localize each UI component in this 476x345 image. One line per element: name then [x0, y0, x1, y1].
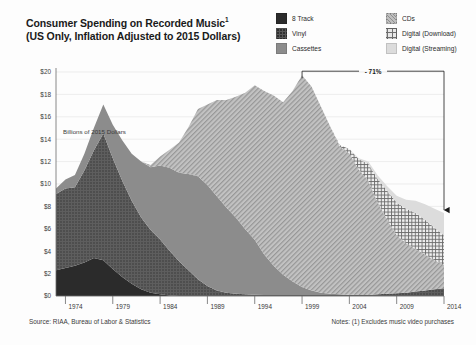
y-tick-label: $14	[40, 136, 51, 143]
legend-item-8-track[interactable]: 8 Track	[276, 11, 321, 26]
legend-item-digital-download[interactable]: Digital (Download)	[386, 26, 457, 41]
x-tick-label: 2014	[447, 303, 462, 310]
x-tick-label: 1974	[68, 303, 83, 310]
legend-label-8-track: 8 Track	[292, 14, 314, 23]
y-tick-label: $16	[40, 113, 51, 120]
legend-label-digital-streaming: Digital (Streaming)	[402, 44, 457, 53]
legend-item-cassettes[interactable]: Cassettes	[276, 41, 321, 56]
chart-series-areas	[56, 75, 444, 296]
chart-header: Consumer Spending on Recorded Music1 (US…	[0, 0, 476, 62]
legend-item-digital-streaming[interactable]: Digital (Streaming)	[386, 41, 457, 56]
title-line-1: Consumer Spending on Recorded Music	[26, 17, 225, 29]
swatch-cassettes-icon	[276, 43, 287, 54]
chart-legend: 8 Track Vinyl Cassettes CDs Di	[276, 11, 472, 57]
y-axis-label: Billions of 2015 Dollars	[63, 128, 126, 135]
source-text: Source: RIAA, Bureau of Labor & Statisti…	[29, 318, 150, 325]
y-tick-label: $18	[40, 91, 51, 98]
x-tick-label: 2004	[352, 303, 367, 310]
chart-footer: Source: RIAA, Bureau of Labor & Statisti…	[0, 316, 476, 345]
y-tick-label: $2	[44, 270, 52, 277]
y-tick-label: $6	[44, 225, 52, 232]
legend-label-cassettes: Cassettes	[292, 44, 321, 53]
notes-text: Notes: (1) Excludes music video purchase…	[331, 318, 454, 325]
x-tick-label: 1989	[210, 303, 225, 310]
x-tick-label: 1994	[258, 303, 273, 310]
chart-plot-area: 197419791984198919941999200420092014 $0$…	[0, 62, 476, 314]
legend-label-digital-download: Digital (Download)	[402, 29, 456, 38]
y-tick-label: $12	[40, 158, 51, 165]
legend-item-cds[interactable]: CDs	[386, 11, 457, 26]
swatch-streaming-icon	[386, 43, 397, 54]
y-tick-label: $4	[44, 248, 52, 255]
x-tick-label: 1984	[163, 303, 178, 310]
legend-column-left: 8 Track Vinyl Cassettes	[276, 11, 321, 56]
swatch-cds-icon	[386, 13, 397, 24]
x-tick-label: 1999	[305, 303, 320, 310]
chart-y-axis-ticks: $0$2$4$6$8$10$12$14$16$18$20	[40, 68, 51, 299]
annotation-label: - 71%	[365, 68, 382, 75]
legend-item-vinyl[interactable]: Vinyl	[276, 26, 321, 41]
legend-column-right: CDs Digital (Download) Digital (Streamin…	[386, 11, 457, 56]
stacked-area-chart: 197419791984198919941999200420092014 $0$…	[0, 62, 476, 314]
legend-label-vinyl: Vinyl	[292, 29, 306, 38]
x-tick-label: 2009	[400, 303, 415, 310]
y-tick-label: $20	[40, 68, 51, 75]
swatch-vinyl-icon	[276, 28, 287, 39]
x-tick-label: 1979	[116, 303, 131, 310]
swatch-download-icon	[386, 28, 397, 39]
chart-page: Consumer Spending on Recorded Music1 (US…	[0, 0, 476, 345]
y-tick-label: $10	[40, 180, 51, 187]
title-line-2: (US Only, Inflation Adjusted to 2015 Dol…	[26, 30, 240, 42]
title-footnote-marker: 1	[225, 16, 229, 23]
y-tick-label: $8	[44, 203, 52, 210]
legend-label-cds: CDs	[402, 14, 415, 23]
page-title: Consumer Spending on Recorded Music1 (US…	[26, 13, 240, 43]
swatch-8track-icon	[276, 13, 287, 24]
y-tick-label: $0	[44, 292, 52, 299]
chart-x-axis-ticks: 197419791984198919941999200420092014	[65, 296, 461, 310]
